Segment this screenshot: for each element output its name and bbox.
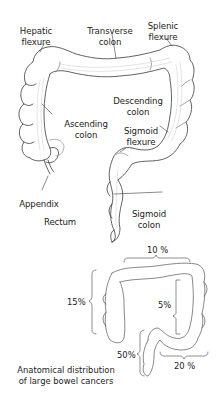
pct-rectum: 50%: [117, 350, 136, 360]
label-sigmoid-colon: Sigmoid colon: [124, 209, 174, 230]
pct-sigmoid: 20 %: [174, 361, 195, 371]
pct-ascending: 15%: [67, 297, 86, 307]
distribution-braces: [89, 255, 208, 376]
label-sigmoid-flexure: Sigmoid flexure: [116, 126, 166, 147]
label-ascending-colon: Ascending colon: [58, 119, 114, 140]
label-rectum: Rectum: [40, 217, 80, 228]
label-descending-colon: Descending colon: [108, 96, 168, 117]
distribution-caption: Anatomical distribution of large bowel c…: [16, 365, 116, 386]
pct-transverse: 10 %: [147, 245, 168, 255]
label-splenic-flexure: Splenic flexure: [140, 21, 186, 42]
label-appendix: Appendix: [14, 199, 64, 210]
pct-descending: 5%: [158, 300, 171, 310]
label-transverse-colon: Transverse colon: [80, 26, 140, 47]
label-hepatic-flexure: Hepatic flexure: [14, 26, 58, 47]
